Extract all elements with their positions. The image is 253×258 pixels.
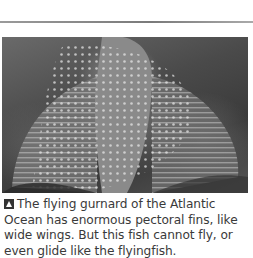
flying-gurnard-illustration — [2, 37, 248, 193]
caption-text: The flying gurnard of the Atlantic Ocean… — [4, 197, 238, 258]
triangle-pointer-icon — [4, 199, 14, 209]
horizontal-rule — [0, 21, 253, 23]
photo-caption: The flying gurnard of the Atlantic Ocean… — [4, 197, 250, 258]
fish-photo — [2, 37, 248, 193]
